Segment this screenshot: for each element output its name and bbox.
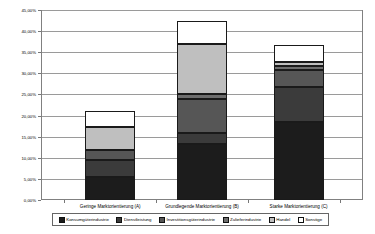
bar-segment[interactable]: [274, 122, 324, 200]
bar-column[interactable]: [177, 21, 227, 200]
bar-segment[interactable]: [177, 144, 227, 200]
legend-label: Sonstige: [305, 217, 322, 222]
y-axis-tick-label: 45,00%: [21, 8, 36, 13]
y-axis-tick-label: 15,00%: [21, 134, 36, 139]
bar-segment[interactable]: [85, 177, 135, 200]
bar-segment[interactable]: [177, 21, 227, 43]
legend-swatch-icon: [59, 217, 65, 223]
legend-label: Handel: [276, 217, 290, 222]
bar-segment[interactable]: [85, 150, 135, 161]
bar-segment[interactable]: [274, 70, 324, 87]
y-axis: 0,00%5,00%10,00%15,00%20,00%25,00%30,00%…: [0, 0, 41, 210]
bar-segment[interactable]: [177, 133, 227, 144]
x-axis-category-label: Geringe Marktorientierung (A): [80, 204, 141, 210]
legend-label: Investitionsgüterindustrie: [166, 217, 215, 222]
x-axis-tick-mark: [340, 200, 341, 203]
legend-item[interactable]: Handel: [269, 217, 290, 223]
bar-segment[interactable]: [274, 87, 324, 122]
legend-swatch-icon: [116, 217, 122, 223]
legend-item[interactable]: Zulieferindustrie: [223, 217, 262, 223]
y-axis-tick-label: 40,00%: [21, 29, 36, 34]
bar-segment[interactable]: [274, 45, 324, 62]
legend-swatch-icon: [298, 217, 304, 223]
x-axis: Geringe Marktorientierung (A)Grundlegend…: [41, 200, 363, 214]
bar-segment[interactable]: [274, 66, 324, 70]
y-axis-tick-label: 5,00%: [24, 176, 36, 181]
legend-swatch-icon: [159, 217, 165, 223]
y-axis-tick-label: 25,00%: [21, 92, 36, 97]
bar-segment[interactable]: [177, 99, 227, 134]
legend-label: Zulieferindustrie: [230, 217, 261, 222]
legend-label: Konsumgüterindustrie: [66, 217, 109, 222]
x-axis-tick-mark: [248, 200, 249, 203]
x-axis-tick-mark: [156, 200, 157, 203]
legend-swatch-icon: [269, 217, 275, 223]
bar-segment[interactable]: [177, 44, 227, 94]
bar-segment[interactable]: [85, 160, 135, 176]
bar-segment[interactable]: [274, 62, 324, 66]
stacked-bar-chart: 0,00%5,00%10,00%15,00%20,00%25,00%30,00%…: [0, 0, 375, 234]
bar-segment[interactable]: [85, 111, 135, 128]
legend-item[interactable]: Dienstleistung: [116, 217, 151, 223]
bars-layer: [41, 10, 363, 200]
x-axis-category-label: Starke Marktorientierung (C): [270, 204, 328, 210]
bar-segment[interactable]: [85, 127, 135, 149]
legend-item[interactable]: Investitionsgüterindustrie: [159, 217, 215, 223]
y-axis-tick-label: 10,00%: [21, 155, 36, 160]
legend-item[interactable]: Sonstige: [298, 217, 323, 223]
y-axis-tick-label: 20,00%: [21, 113, 36, 118]
legend-swatch-icon: [223, 217, 229, 223]
y-axis-tick-label: 30,00%: [21, 71, 36, 76]
x-axis-category-label: Grundlegende Marktorientierung (B): [165, 204, 239, 210]
legend-item[interactable]: Konsumgüterindustrie: [59, 217, 109, 223]
bar-column[interactable]: [274, 45, 324, 200]
legend-label: Dienstleistung: [124, 217, 152, 222]
chart-legend: KonsumgüterindustrieDienstleistungInvest…: [52, 213, 329, 226]
bar-segment[interactable]: [177, 94, 227, 99]
y-axis-tick-label: 0,00%: [24, 198, 36, 203]
bar-column[interactable]: [85, 111, 135, 201]
y-axis-tick-label: 35,00%: [21, 50, 36, 55]
x-axis-tick-mark: [64, 200, 65, 203]
